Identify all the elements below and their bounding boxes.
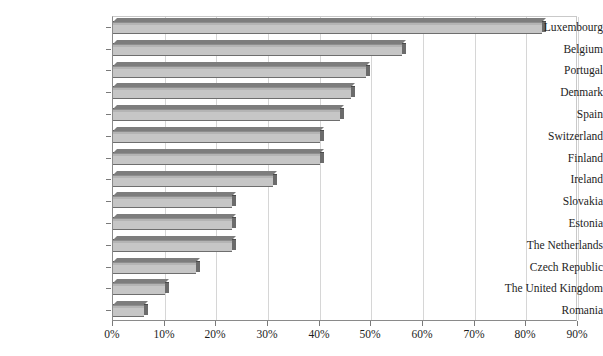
bar	[113, 261, 196, 274]
value-tick-mark	[112, 321, 113, 326]
category-tick-mark	[106, 136, 111, 137]
bar	[113, 65, 366, 78]
category-tick-mark	[106, 288, 111, 289]
gridline	[475, 17, 476, 320]
category-label: Romania	[495, 304, 603, 316]
value-tick-mark	[474, 321, 475, 326]
category-tick-mark	[106, 201, 111, 202]
value-tick-mark	[267, 321, 268, 326]
value-tick-mark	[577, 321, 578, 326]
gridline	[526, 17, 527, 320]
category-label: The United Kingdom	[495, 282, 603, 294]
category-label: Portugal	[495, 64, 603, 76]
value-tick-label: 0%	[92, 328, 132, 341]
bar	[113, 282, 165, 295]
bar	[113, 217, 232, 230]
value-tick-mark	[164, 321, 165, 326]
value-tick-mark	[370, 321, 371, 326]
value-tick-label: 40%	[299, 328, 339, 341]
value-tick-mark	[422, 321, 423, 326]
category-tick-mark	[106, 310, 111, 311]
category-label: Czech Republic	[495, 261, 603, 273]
bar	[113, 239, 232, 252]
bar	[113, 152, 320, 165]
plot-area	[112, 16, 577, 321]
bar	[113, 21, 542, 34]
gridline	[371, 17, 372, 320]
category-tick-mark	[106, 27, 111, 28]
bar	[113, 174, 273, 187]
value-tick-label: 60%	[402, 328, 442, 341]
category-label: Switzerland	[495, 130, 603, 142]
gridline	[578, 17, 579, 320]
value-tick-label: 20%	[195, 328, 235, 341]
bar	[113, 108, 340, 121]
category-label: Denmark	[495, 86, 603, 98]
category-label: Luxembourg	[495, 21, 603, 33]
value-tick-label: 10%	[144, 328, 184, 341]
bar	[113, 304, 144, 317]
value-tick-label: 50%	[350, 328, 390, 341]
category-tick-mark	[106, 179, 111, 180]
bar-chart: LuxembourgBelgiumPortugalDenmarkSpainSwi…	[0, 0, 603, 356]
category-tick-mark	[106, 92, 111, 93]
category-label: The Netherlands	[495, 239, 603, 251]
category-label: Estonia	[495, 217, 603, 229]
category-label: Ireland	[495, 173, 603, 185]
bar	[113, 43, 402, 56]
category-label: Spain	[495, 108, 603, 120]
bar	[113, 130, 320, 143]
value-tick-label: 80%	[505, 328, 545, 341]
category-label: Belgium	[495, 43, 603, 55]
category-tick-mark	[106, 245, 111, 246]
value-tick-mark	[319, 321, 320, 326]
value-tick-mark	[215, 321, 216, 326]
category-label: Slovakia	[495, 195, 603, 207]
category-label: Finland	[495, 152, 603, 164]
bar	[113, 195, 232, 208]
category-tick-mark	[106, 70, 111, 71]
value-tick-label: 30%	[247, 328, 287, 341]
value-tick-label: 70%	[454, 328, 494, 341]
category-tick-mark	[106, 223, 111, 224]
value-tick-mark	[525, 321, 526, 326]
bar	[113, 86, 351, 99]
category-tick-mark	[106, 49, 111, 50]
category-tick-mark	[106, 158, 111, 159]
category-tick-mark	[106, 114, 111, 115]
value-tick-label: 90%	[557, 328, 597, 341]
category-tick-mark	[106, 267, 111, 268]
gridline	[423, 17, 424, 320]
